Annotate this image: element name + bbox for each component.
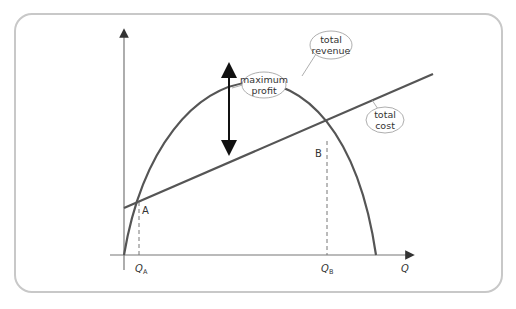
point-a-label: A	[142, 205, 149, 216]
x-axis-label: Q	[401, 263, 409, 274]
total-cost-callout: total cost	[366, 100, 404, 133]
qb-tick-label: Q B	[321, 263, 333, 276]
profit-diagram: A B Q A Q B Q maximum profit total reven…	[0, 0, 516, 309]
maximum-profit-callout: maximum profit	[232, 72, 288, 98]
svg-text:total: total	[320, 34, 342, 45]
svg-text:A: A	[143, 268, 148, 276]
svg-text:Q: Q	[135, 263, 143, 274]
point-b-label: B	[315, 148, 322, 159]
total-revenue-curve	[124, 82, 376, 255]
qa-tick-label: Q A	[135, 263, 148, 276]
svg-text:maximum: maximum	[240, 74, 288, 85]
svg-text:revenue: revenue	[312, 45, 351, 56]
svg-text:B: B	[329, 268, 333, 276]
svg-text:total: total	[374, 109, 396, 120]
total-revenue-callout: total revenue	[302, 31, 352, 76]
svg-text:Q: Q	[321, 263, 329, 274]
svg-text:profit: profit	[251, 85, 277, 96]
svg-text:cost: cost	[375, 120, 395, 131]
